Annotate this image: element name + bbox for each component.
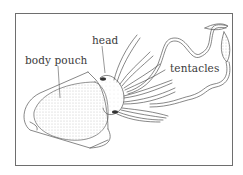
label-head: head xyxy=(92,35,118,46)
squid-illustration xyxy=(0,0,243,175)
label-body-pouch: body pouch xyxy=(25,55,87,66)
head-leader xyxy=(102,46,105,73)
squid-body xyxy=(24,24,230,148)
label-tentacles: tentacles xyxy=(170,63,219,74)
